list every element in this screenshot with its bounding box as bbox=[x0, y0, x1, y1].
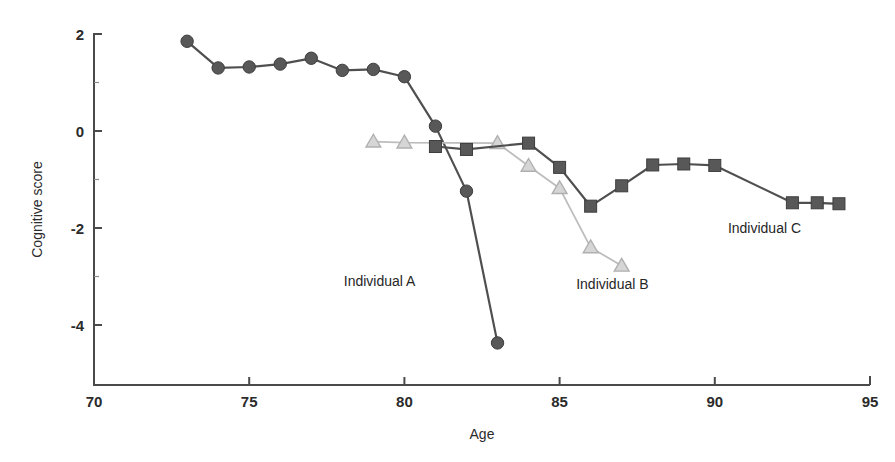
data-point-individual-c-11 bbox=[833, 198, 845, 210]
data-point-individual-c-10 bbox=[811, 197, 823, 209]
x-tick-label-70: 70 bbox=[86, 393, 103, 410]
data-point-individual-c-3 bbox=[554, 161, 566, 173]
data-point-individual-b-0 bbox=[366, 134, 381, 147]
x-tick-label-95: 95 bbox=[862, 393, 879, 410]
x-axis-line bbox=[94, 376, 870, 385]
data-point-individual-a-0 bbox=[181, 35, 193, 47]
cognitive-score-chart: 20-2-4707580859095AgeCognitive scoreIndi… bbox=[0, 0, 895, 462]
data-point-individual-c-9 bbox=[786, 197, 798, 209]
y-tick-label-0: 0 bbox=[76, 123, 84, 140]
data-point-individual-a-7 bbox=[398, 70, 410, 82]
data-point-individual-a-6 bbox=[367, 63, 379, 75]
data-point-individual-c-5 bbox=[616, 180, 628, 192]
series-line-individual-c bbox=[435, 143, 839, 206]
data-point-individual-c-0 bbox=[429, 141, 441, 153]
series-line-individual-a bbox=[187, 41, 497, 343]
data-point-individual-b-4 bbox=[552, 181, 567, 194]
y-axis-line bbox=[94, 34, 101, 385]
x-tick-label-80: 80 bbox=[396, 393, 413, 410]
data-point-individual-c-2 bbox=[523, 137, 535, 149]
y-axis-title: Cognitive score bbox=[29, 161, 45, 258]
y-tick-label-2: 2 bbox=[76, 26, 84, 43]
annotation-individual-a: Individual A bbox=[344, 273, 416, 289]
data-point-individual-b-6 bbox=[614, 258, 629, 271]
annotation-individual-c: Individual C bbox=[728, 220, 801, 236]
data-point-individual-a-5 bbox=[336, 64, 348, 76]
data-point-individual-b-3 bbox=[521, 159, 536, 172]
data-point-individual-a-2 bbox=[243, 61, 255, 73]
x-tick-label-90: 90 bbox=[706, 393, 723, 410]
y-tick-label--4: -4 bbox=[71, 317, 85, 334]
annotation-individual-b: Individual B bbox=[576, 276, 648, 292]
data-point-individual-c-1 bbox=[460, 143, 472, 155]
data-point-individual-b-5 bbox=[583, 240, 598, 253]
x-tick-label-75: 75 bbox=[241, 393, 258, 410]
x-tick-label-85: 85 bbox=[551, 393, 568, 410]
data-point-individual-a-10 bbox=[491, 337, 503, 349]
data-point-individual-a-4 bbox=[305, 52, 317, 64]
chart-plot-area: 20-2-4707580859095AgeCognitive scoreIndi… bbox=[0, 0, 895, 462]
data-point-individual-c-6 bbox=[647, 159, 659, 171]
data-point-individual-a-8 bbox=[429, 120, 441, 132]
data-point-individual-c-4 bbox=[585, 200, 597, 212]
y-tick-label--2: -2 bbox=[71, 220, 84, 237]
data-point-individual-a-1 bbox=[212, 62, 224, 74]
data-point-individual-a-9 bbox=[460, 185, 472, 197]
x-axis-title: Age bbox=[470, 426, 495, 442]
data-point-individual-c-8 bbox=[709, 159, 721, 171]
data-point-individual-c-7 bbox=[678, 158, 690, 170]
data-point-individual-a-3 bbox=[274, 58, 286, 70]
